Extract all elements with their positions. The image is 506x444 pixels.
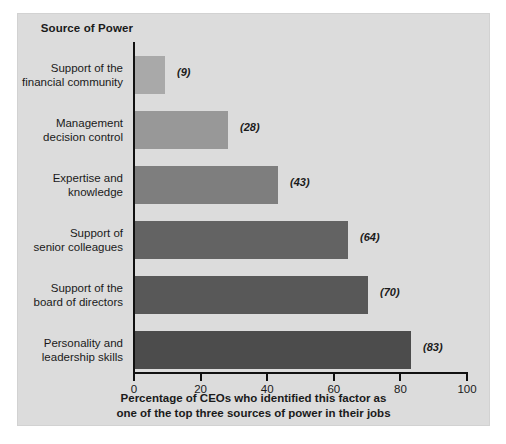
category-label-line: Expertise and — [15, 171, 123, 185]
category-label: Expertise and knowledge — [15, 171, 123, 199]
bar-value-label: (83) — [423, 341, 443, 353]
bar-value-label: (70) — [380, 286, 400, 298]
x-axis-tick — [466, 374, 468, 381]
category-label-line: Support of the — [15, 61, 123, 75]
bar[interactable] — [135, 276, 368, 314]
category-label: Personality and leadership skills — [15, 336, 123, 364]
x-axis-tick — [266, 374, 268, 381]
category-label-line: Management — [15, 116, 123, 130]
category-label-line: senior colleagues — [15, 240, 123, 254]
chart-figure: Source of Power Support of the financial… — [0, 0, 506, 444]
category-label-line: financial community — [15, 75, 123, 89]
bar[interactable] — [135, 56, 165, 94]
category-column-header: Source of Power — [18, 22, 133, 34]
category-label: Management decision control — [15, 116, 123, 144]
category-label-line: board of directors — [15, 295, 123, 309]
bar[interactable] — [135, 111, 228, 149]
x-axis-tick — [333, 374, 335, 381]
bar[interactable] — [135, 331, 411, 369]
bar-value-label: (9) — [177, 66, 190, 78]
bar-value-label: (64) — [360, 231, 380, 243]
bar-value-label: (43) — [290, 176, 310, 188]
x-axis-tick — [399, 374, 401, 381]
category-label: Support of the financial community — [15, 61, 123, 89]
category-label: Support of senior colleagues — [15, 226, 123, 254]
bar[interactable] — [135, 166, 278, 204]
x-axis-line — [133, 372, 468, 374]
chart-panel: Source of Power Support of the financial… — [18, 14, 489, 425]
x-axis-caption-line: Percentage of CEOs who identified this f… — [18, 391, 489, 406]
category-label-line: Personality and — [15, 336, 123, 350]
x-axis-tick — [200, 374, 202, 381]
x-axis-caption-line: one of the top three sources of power in… — [18, 406, 489, 421]
x-axis-tick — [133, 374, 135, 381]
category-label-line: Support of the — [15, 281, 123, 295]
category-label: Support of the board of directors — [15, 281, 123, 309]
plot-area: Support of the financial community (9) M… — [133, 42, 466, 372]
category-label-line: decision control — [15, 130, 123, 144]
x-axis-caption: Percentage of CEOs who identified this f… — [18, 391, 489, 421]
category-label-line: leadership skills — [15, 350, 123, 364]
category-label-line: knowledge — [15, 185, 123, 199]
bar-value-label: (28) — [240, 121, 260, 133]
category-label-line: Support of — [15, 226, 123, 240]
bar[interactable] — [135, 221, 348, 259]
